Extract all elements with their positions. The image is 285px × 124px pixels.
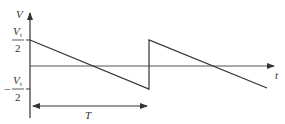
bottom-level-subscript: t	[20, 80, 22, 88]
period-label: T	[85, 109, 92, 121]
top-level-denominator: 2	[15, 42, 21, 54]
bottom-level-sign: −	[4, 83, 10, 95]
bottom-level-denominator: 2	[15, 91, 21, 103]
top-level-subscript: t	[20, 31, 22, 39]
diagram-canvas: V t V t 2 − V t 2 T	[0, 0, 285, 124]
sawtooth-wave	[30, 40, 267, 89]
y-axis-label: V	[16, 8, 24, 20]
x-axis-label: t	[275, 69, 279, 81]
sawtooth-diagram: V t V t 2 − V t 2 T	[0, 0, 285, 124]
